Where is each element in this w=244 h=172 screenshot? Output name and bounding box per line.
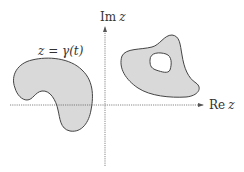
left-region — [14, 58, 93, 131]
imaginary-axis-label: Imz — [100, 10, 126, 24]
complex-plane-diagram: Imz Rez z = γ(t) — [0, 0, 244, 172]
right-region — [121, 35, 199, 97]
real-axis-label: Rez — [209, 98, 235, 112]
curve-label: z = γ(t) — [37, 44, 84, 58]
